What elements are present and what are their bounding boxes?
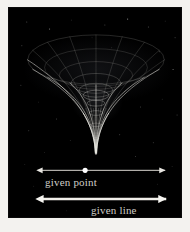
figure-frame: given point given line xyxy=(0,0,190,232)
given-line-label: given line xyxy=(91,204,137,216)
given-point-label: given point xyxy=(45,176,97,188)
illustration-plate: given point given line xyxy=(8,7,182,218)
given-point-marker xyxy=(83,168,88,173)
